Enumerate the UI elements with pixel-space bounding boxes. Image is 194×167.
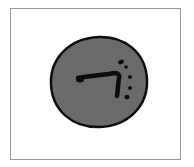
disc <box>51 37 147 127</box>
dot-4 <box>128 86 132 90</box>
gray-disc-glyph-icon <box>0 0 194 167</box>
dot-2 <box>124 65 128 69</box>
dot-3 <box>128 75 132 79</box>
dot-5 <box>124 95 129 99</box>
bar-end-blob <box>76 76 84 83</box>
